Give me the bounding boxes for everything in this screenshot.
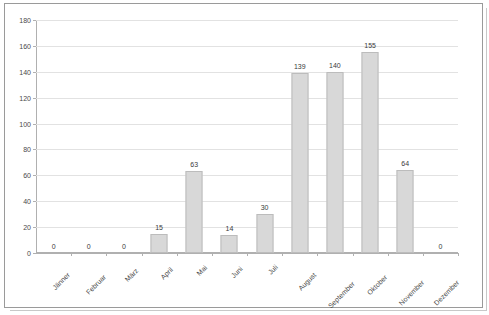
bar-slot: 140: [317, 20, 352, 253]
y-tick-label: 0: [27, 250, 31, 257]
bar-slot: 139: [282, 20, 317, 253]
bar-chart-figure: 020406080100120140160180 000156314301391…: [0, 0, 489, 315]
bar[interactable]: [362, 52, 379, 253]
x-tick-mark: [458, 253, 459, 256]
bar-value-label: 64: [401, 160, 409, 167]
bar[interactable]: [221, 235, 238, 253]
bar-slot: 14: [212, 20, 247, 253]
bar-value-label: 0: [438, 243, 442, 250]
bar-value-label: 0: [52, 243, 56, 250]
bar-value-label: 139: [294, 63, 306, 70]
x-axis-category-label: August: [297, 271, 317, 291]
y-tick-label: 60: [23, 172, 31, 179]
bar-value-label: 30: [261, 204, 269, 211]
y-tick-label: 140: [19, 68, 31, 75]
bar-slot: 15: [142, 20, 177, 253]
bar[interactable]: [397, 170, 414, 253]
x-axis-category-label: Juli: [266, 263, 278, 275]
bar-value-label: 15: [155, 224, 163, 231]
bar[interactable]: [186, 171, 203, 253]
x-axis-category-label: Mai: [196, 264, 209, 277]
x-axis-category-label: April: [159, 266, 174, 281]
y-tick-label: 20: [23, 224, 31, 231]
bar-slot: 0: [423, 20, 458, 253]
y-tick-label: 40: [23, 198, 31, 205]
x-axis-category-label: September: [327, 280, 356, 309]
bar-value-label: 63: [190, 161, 198, 168]
y-tick-label: 100: [19, 120, 31, 127]
bar[interactable]: [256, 214, 273, 253]
bar[interactable]: [326, 72, 343, 253]
x-axis-category-label: Dezember: [433, 279, 461, 307]
bar[interactable]: [291, 73, 308, 253]
bar-slot: 30: [247, 20, 282, 253]
bars-layer: 00015631430139140155640: [36, 20, 458, 253]
y-tick-label: 80: [23, 146, 31, 153]
y-tick-label: 180: [19, 17, 31, 24]
plot-area: 020406080100120140160180 000156314301391…: [36, 20, 458, 253]
bar-slot: 155: [353, 20, 388, 253]
bar-slot: 0: [71, 20, 106, 253]
y-tick-label: 160: [19, 42, 31, 49]
bar-slot: 0: [36, 20, 71, 253]
x-axis-labels: JännerFebruarMärzAprilMaiJuniJuliAugustS…: [36, 254, 458, 310]
x-axis-category-label: März: [123, 267, 139, 283]
x-axis-category-label: Februar: [85, 273, 107, 295]
x-axis-category-label: Jänner: [51, 271, 71, 291]
bar-slot: 0: [106, 20, 141, 253]
bar-value-label: 155: [364, 42, 376, 49]
bar-value-label: 140: [329, 62, 341, 69]
x-axis-category-label: Juni: [230, 265, 244, 279]
x-axis-category-label: Oktober: [366, 274, 389, 297]
bar-value-label: 0: [122, 243, 126, 250]
bar-value-label: 14: [226, 225, 234, 232]
bar-slot: 64: [388, 20, 423, 253]
y-tick-label: 120: [19, 94, 31, 101]
bar-slot: 63: [177, 20, 212, 253]
x-axis-category-label: November: [398, 279, 426, 307]
bar[interactable]: [151, 234, 168, 253]
bar-value-label: 0: [87, 243, 91, 250]
